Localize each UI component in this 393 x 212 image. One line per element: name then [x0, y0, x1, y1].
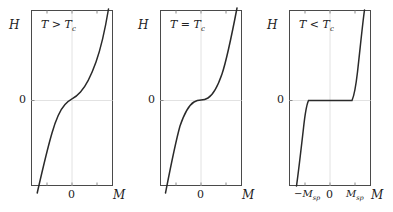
panel-T-equal-Tc: H 0 0 M T = Tc: [129, 0, 260, 212]
panel-T-less-Tc: H 0 −Msp 0 Msp M T < Tc: [258, 0, 389, 212]
three-panel-isotherm-figure: H 0 0 M T > Tc H 0 0 M T = Tc: [0, 0, 393, 212]
panel-T-greater-Tc: H 0 0 M T > Tc: [0, 0, 131, 212]
